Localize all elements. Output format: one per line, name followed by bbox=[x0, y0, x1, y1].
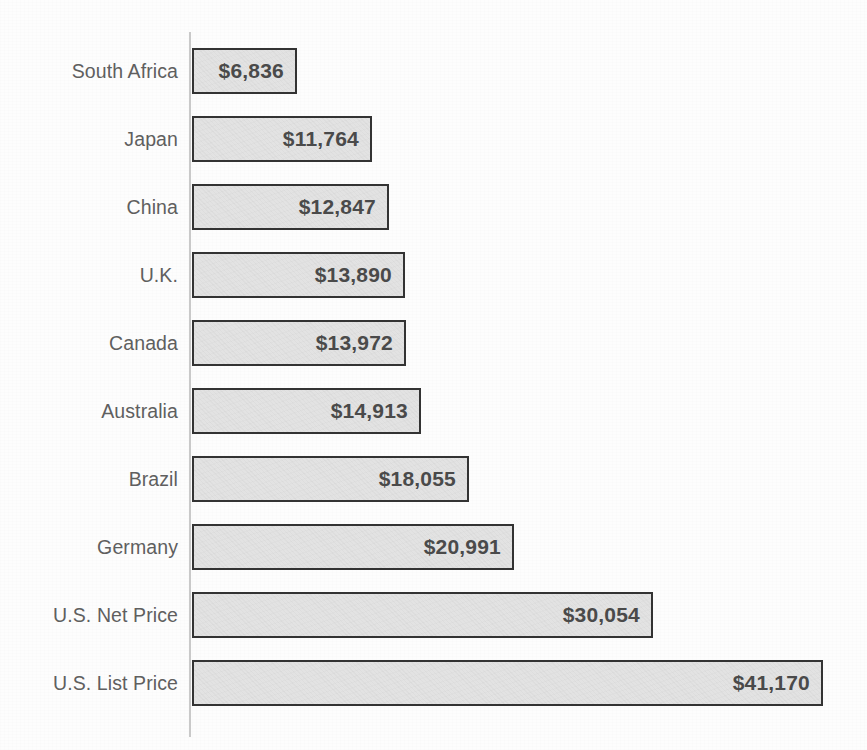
bar-row: China$12,847 bbox=[0, 184, 867, 230]
bar-value-label: $14,913 bbox=[331, 399, 419, 423]
bar-value-label: $20,991 bbox=[424, 535, 512, 559]
bar-category-label: U.K. bbox=[0, 252, 178, 298]
bar-wrapper: $30,054 bbox=[192, 592, 653, 638]
bar[interactable]: $13,890 bbox=[192, 252, 405, 298]
bar-value-label: $13,972 bbox=[316, 331, 404, 355]
bar-wrapper: $13,890 bbox=[192, 252, 405, 298]
bar-row: U.S. List Price$41,170 bbox=[0, 660, 867, 706]
bar-category-label: Germany bbox=[0, 524, 178, 570]
bar-row: South Africa$6,836 bbox=[0, 48, 867, 94]
bar-category-label: South Africa bbox=[0, 48, 178, 94]
bar[interactable]: $11,764 bbox=[192, 116, 372, 162]
bar-row: U.S. Net Price$30,054 bbox=[0, 592, 867, 638]
bar-value-label: $18,055 bbox=[379, 467, 467, 491]
bar-wrapper: $13,972 bbox=[192, 320, 406, 366]
bar-value-label: $6,836 bbox=[219, 59, 295, 83]
bar-value-label: $41,170 bbox=[733, 671, 821, 695]
bar[interactable]: $20,991 bbox=[192, 524, 514, 570]
bar-row: Japan$11,764 bbox=[0, 116, 867, 162]
bar-value-label: $11,764 bbox=[283, 127, 370, 151]
bar-wrapper: $14,913 bbox=[192, 388, 421, 434]
bar-row: U.K.$13,890 bbox=[0, 252, 867, 298]
bar-category-label: U.S. Net Price bbox=[0, 592, 178, 638]
bar[interactable]: $6,836 bbox=[192, 48, 297, 94]
bar-value-label: $12,847 bbox=[299, 195, 387, 219]
bar[interactable]: $30,054 bbox=[192, 592, 653, 638]
bar-chart: South Africa$6,836Japan$11,764China$12,8… bbox=[0, 0, 867, 750]
bar[interactable]: $12,847 bbox=[192, 184, 389, 230]
bar-row: Brazil$18,055 bbox=[0, 456, 867, 502]
bar[interactable]: $41,170 bbox=[192, 660, 823, 706]
bar-wrapper: $12,847 bbox=[192, 184, 389, 230]
bar-wrapper: $6,836 bbox=[192, 48, 297, 94]
bar-row: Australia$14,913 bbox=[0, 388, 867, 434]
bar-wrapper: $11,764 bbox=[192, 116, 372, 162]
bar[interactable]: $13,972 bbox=[192, 320, 406, 366]
bar-category-label: U.S. List Price bbox=[0, 660, 178, 706]
bar-wrapper: $20,991 bbox=[192, 524, 514, 570]
bar-wrapper: $18,055 bbox=[192, 456, 469, 502]
bar[interactable]: $14,913 bbox=[192, 388, 421, 434]
bar-category-label: Australia bbox=[0, 388, 178, 434]
bar-row: Germany$20,991 bbox=[0, 524, 867, 570]
bar-category-label: China bbox=[0, 184, 178, 230]
bar-row: Canada$13,972 bbox=[0, 320, 867, 366]
bar[interactable]: $18,055 bbox=[192, 456, 469, 502]
bar-wrapper: $41,170 bbox=[192, 660, 823, 706]
bar-category-label: Canada bbox=[0, 320, 178, 366]
bar-category-label: Brazil bbox=[0, 456, 178, 502]
bar-category-label: Japan bbox=[0, 116, 178, 162]
bar-value-label: $30,054 bbox=[563, 603, 651, 627]
bar-value-label: $13,890 bbox=[315, 263, 403, 287]
